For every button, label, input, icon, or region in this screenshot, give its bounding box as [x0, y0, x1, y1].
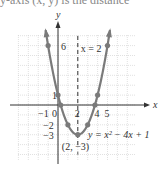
x-tick-label: 2 [75, 108, 80, 119]
data-point [85, 122, 90, 127]
data-point [95, 93, 100, 98]
data-point [46, 43, 51, 48]
y-tick-label: 6 [61, 41, 66, 52]
x-intercept-point [92, 102, 97, 107]
parabola-chart: x y x = 2 −1024561−2−3 (2, −3) y = x² − … [0, 0, 160, 174]
data-point [75, 132, 80, 137]
y-axis-arrow-icon [56, 21, 61, 28]
curve-arrow-left-icon [44, 28, 50, 37]
curve-equation-label: y = x² − 4x + 1 [87, 129, 150, 140]
x-axis-arrow-icon [144, 103, 150, 108]
x-tick-label: −1 [38, 108, 49, 119]
x-tick-label: 0 [52, 108, 57, 119]
data-point [105, 43, 110, 48]
y-axis-label: y [55, 9, 61, 20]
x-axis-label: x [152, 99, 158, 110]
x-tick-label: 5 [105, 108, 110, 119]
y-tick-label: 1 [52, 90, 57, 101]
y-tick-label: −3 [43, 130, 54, 141]
curve-arrow-right-icon [106, 28, 112, 37]
x-intercept-point [58, 102, 63, 107]
data-point [65, 122, 70, 127]
x-tick-label: 4 [95, 108, 100, 119]
vertex-label: (2, −3) [62, 141, 89, 153]
axis-of-symmetry-label: x = 2 [81, 43, 102, 54]
